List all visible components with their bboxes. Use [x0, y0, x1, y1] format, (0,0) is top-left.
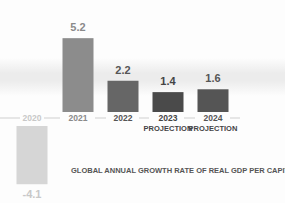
- value-label: 1.6: [205, 72, 220, 84]
- projection-label: PROJECTION: [144, 124, 193, 133]
- bar-2021: [63, 38, 94, 112]
- bar-2020: [17, 126, 48, 184]
- value-label: -4.1: [23, 188, 42, 200]
- bar-2024: [198, 89, 229, 112]
- category-label: 2024: [204, 113, 223, 123]
- category-label: 2022: [114, 113, 133, 123]
- category-label: 2021: [69, 113, 88, 123]
- bar-2023: [153, 92, 184, 112]
- category-label: 2020: [23, 113, 42, 123]
- projection-label: PROJECTION: [189, 124, 238, 133]
- category-label: 2023: [159, 113, 178, 123]
- value-label: 2.2: [115, 64, 130, 76]
- bar-2022: [108, 81, 139, 112]
- value-label: 5.2: [70, 21, 85, 33]
- value-label: 1.4: [160, 75, 176, 87]
- bar-chart: -4.120205.220212.220221.42023PROJECTION1…: [0, 0, 285, 203]
- chart-title: GLOBAL ANNUAL GROWTH RATE OF REAL GDP PE…: [71, 166, 285, 175]
